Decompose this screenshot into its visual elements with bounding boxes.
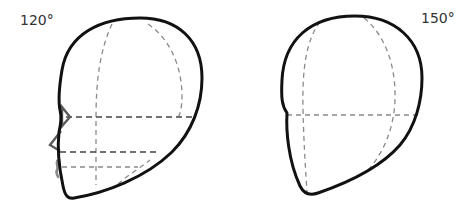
head-150-outline <box>282 16 422 194</box>
head-angle-diagram <box>0 0 471 212</box>
head-150-drawing <box>282 16 422 194</box>
head-120-outline <box>58 18 202 198</box>
head-150-vertical-guide <box>303 22 320 192</box>
head-120-back-guide <box>148 24 182 118</box>
head-150-back-guide <box>364 18 395 170</box>
head-120-guides <box>96 24 182 185</box>
head-150-guides <box>287 18 418 192</box>
head-120-vertical-guide <box>96 24 112 185</box>
head-120-drawing <box>50 18 202 198</box>
